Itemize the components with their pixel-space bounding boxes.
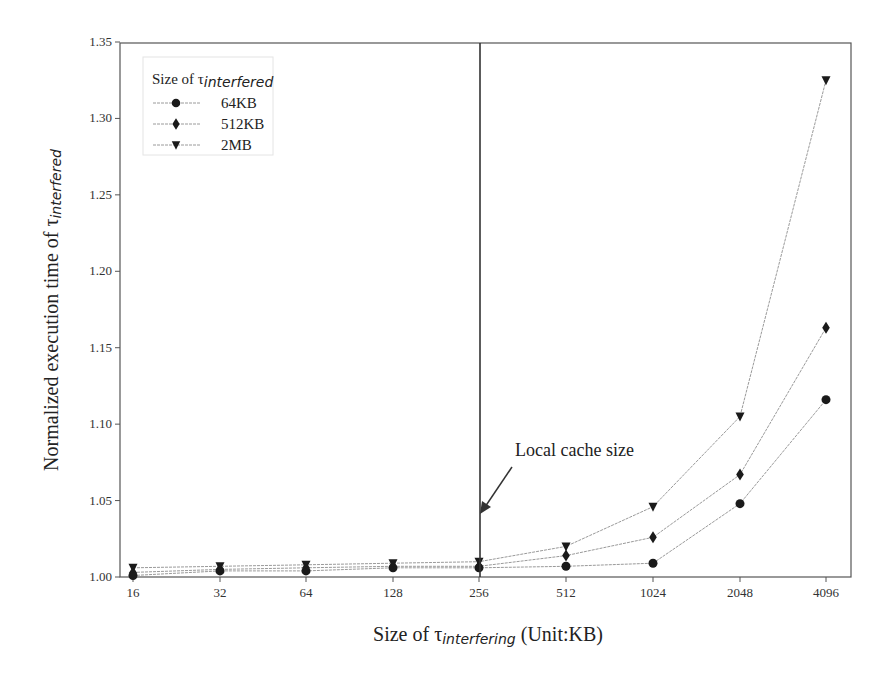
x-tick-label: 4096 xyxy=(813,585,840,600)
circle-marker-icon xyxy=(172,99,181,108)
line-chart: 1.001.051.101.151.201.251.301.35 1632641… xyxy=(0,0,888,680)
x-tick-label: 512 xyxy=(556,585,576,600)
circle-marker-icon xyxy=(822,395,831,404)
x-tick-label: 32 xyxy=(214,585,227,600)
y-tick-label: 1.35 xyxy=(89,34,112,49)
x-tick-label: 2048 xyxy=(727,585,753,600)
legend: Size of τinterfered 64KB512KB2MB xyxy=(143,57,273,155)
annotation-text: Local cache size xyxy=(515,440,634,460)
y-tick-label: 1.20 xyxy=(89,263,112,278)
x-tick-label: 1024 xyxy=(640,585,667,600)
y-tick-label: 1.10 xyxy=(89,416,112,431)
y-tick-label: 1.15 xyxy=(89,340,112,355)
legend-label: 2MB xyxy=(221,137,252,153)
y-tick-label: 1.05 xyxy=(89,493,112,508)
y-tick-label: 1.00 xyxy=(89,569,112,584)
circle-marker-icon xyxy=(736,499,745,508)
y-tick-label: 1.25 xyxy=(89,187,112,202)
y-tick-label: 1.30 xyxy=(89,110,112,125)
circle-marker-icon xyxy=(562,562,571,571)
circle-marker-icon xyxy=(649,559,658,568)
x-tick-label: 128 xyxy=(383,585,403,600)
legend-label: 512KB xyxy=(221,116,264,132)
x-tick-label: 64 xyxy=(300,585,314,600)
legend-label: 64KB xyxy=(221,95,257,111)
x-tick-label: 16 xyxy=(127,585,141,600)
x-tick-label: 256 xyxy=(469,585,489,600)
